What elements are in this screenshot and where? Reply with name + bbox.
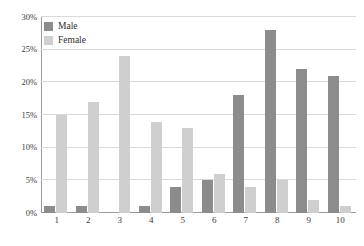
bar-female-10 [340,206,351,213]
y-axis-labels: 0%5%10%15%20%25%30% [0,17,37,213]
bar-male-8 [265,30,276,213]
bar-group [293,17,325,213]
bar-female-5 [182,128,193,213]
bar-group [136,17,168,213]
bar-female-4 [151,122,162,213]
x-tick-label: 1 [42,216,72,225]
x-tick-label: 7 [231,216,261,225]
y-tick-label: 10% [3,143,37,152]
bar-group [262,17,294,213]
bar-female-7 [245,187,256,213]
legend-swatch-icon [44,22,53,31]
y-tick-label: 5% [3,176,37,185]
bar-male-1 [44,206,55,213]
legend-label: Male [58,22,78,32]
bar-male-5 [170,187,181,213]
x-tick-label: 4 [136,216,166,225]
x-axis-labels: 12345678910 [41,216,356,234]
bar-female-1 [56,115,67,213]
legend-label: Female [58,36,86,46]
bar-female-6 [214,174,225,213]
x-tick-label: 3 [105,216,135,225]
y-tick-label: 20% [3,78,37,87]
x-tick-label: 5 [168,216,198,225]
x-tick-label: 6 [199,216,229,225]
bar-group [167,17,199,213]
bar-female-2 [88,102,99,213]
y-tick-label: 30% [3,13,37,22]
bar-male-10 [328,76,339,213]
x-tick-label: 2 [73,216,103,225]
x-tick-label: 10 [325,216,355,225]
bar-male-4 [139,206,150,213]
bar-female-9 [308,200,319,213]
legend-swatch-icon [44,36,53,45]
bar-male-2 [76,206,87,213]
legend-entry-male[interactable]: Male [44,21,86,32]
legend-entry-female[interactable]: Female [44,35,86,46]
bar-group [41,17,73,213]
bar-group [73,17,105,213]
bar-male-7 [233,95,244,213]
y-tick-label: 15% [3,111,37,120]
bar-group [199,17,231,213]
bar-group [230,17,262,213]
bar-male-9 [296,69,307,213]
y-tick-label: 25% [3,45,37,54]
bar-female-3 [119,56,130,213]
x-tick-label: 8 [262,216,292,225]
chart-legend: MaleFemale [44,21,86,46]
plot-area [41,17,356,213]
bar-chart: 0%5%10%15%20%25%30% 12345678910 MaleFema… [0,0,364,246]
bar-male-6 [202,180,213,213]
x-tick-label: 9 [294,216,324,225]
y-tick-label: 0% [3,209,37,218]
bars-layer [41,17,356,213]
bar-group [325,17,357,213]
bar-group [104,17,136,213]
bar-female-8 [277,180,288,213]
